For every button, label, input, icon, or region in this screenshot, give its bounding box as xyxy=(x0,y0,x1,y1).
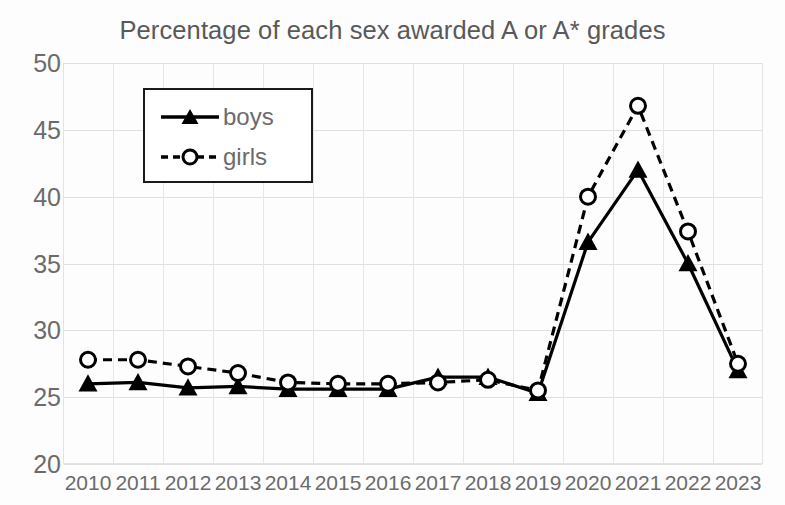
legend-item-girls[interactable]: girls xyxy=(145,138,311,176)
legend-label-girls: girls xyxy=(223,145,267,169)
chart-legend: boys girls xyxy=(143,88,313,183)
gridline-x-2015 xyxy=(313,64,314,463)
x-tick-label-2023: 2023 xyxy=(715,472,762,493)
x-tick-label-2021: 2021 xyxy=(615,472,662,493)
y-tick-label-25: 25 xyxy=(33,385,61,410)
gridline-x-2017 xyxy=(413,64,414,463)
chart-title: Percentage of each sex awarded A or A* g… xyxy=(0,16,785,44)
legend-label-boys: boys xyxy=(223,105,274,129)
gridline-x-2018 xyxy=(463,64,464,463)
gridline-x-2011 xyxy=(113,64,114,463)
x-tick-label-2014: 2014 xyxy=(265,472,312,493)
x-tick-label-2011: 2011 xyxy=(115,472,160,493)
x-tick-label-2019: 2019 xyxy=(515,472,562,493)
x-tick-label-2012: 2012 xyxy=(165,472,212,493)
x-tick-label-2017: 2017 xyxy=(415,472,462,493)
gridline-x-2020 xyxy=(563,64,564,463)
x-tick-label-2018: 2018 xyxy=(465,472,512,493)
legend-marker-boys-triangle-icon xyxy=(159,105,221,129)
y-tick-label-45: 45 xyxy=(33,118,61,143)
legend-marker-girls-circle-icon xyxy=(159,145,221,169)
x-tick-label-2020: 2020 xyxy=(565,472,612,493)
gridline-x-2019 xyxy=(513,64,514,463)
gridline-x-2022 xyxy=(663,64,664,463)
gridline-x-2021 xyxy=(613,64,614,463)
gridline-x-2023 xyxy=(713,64,714,463)
x-tick-label-2015: 2015 xyxy=(315,472,362,493)
y-tick-label-20: 20 xyxy=(33,452,61,477)
y-tick-label-40: 40 xyxy=(33,185,61,210)
y-tick-label-35: 35 xyxy=(33,252,61,277)
gridline-x-2016 xyxy=(363,64,364,463)
x-tick-label-2016: 2016 xyxy=(365,472,412,493)
chart-container: Percentage of each sex awarded A or A* g… xyxy=(0,0,785,505)
gridline-y-20 xyxy=(64,464,762,465)
x-tick-label-2013: 2013 xyxy=(215,472,262,493)
y-tick-label-30: 30 xyxy=(33,318,61,343)
y-tick-label-50: 50 xyxy=(33,51,61,76)
x-tick-label-2022: 2022 xyxy=(665,472,712,493)
x-tick-label-2010: 2010 xyxy=(65,472,112,493)
legend-item-boys[interactable]: boys xyxy=(145,98,311,136)
